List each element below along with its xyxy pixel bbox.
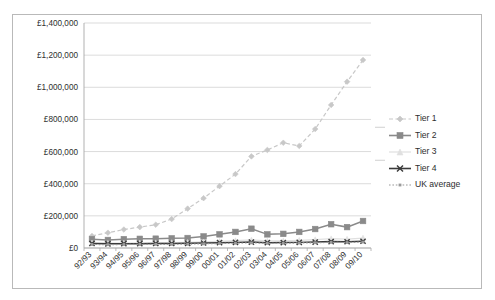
chart-legend: Tier 1Tier 2Tier 3Tier 4UK average [375,113,461,189]
legend-item-tier-2[interactable]: Tier 2 [389,130,437,140]
data-point-marker [312,226,318,232]
y-axis-tick-label: £0 [69,244,79,253]
data-point-marker [91,243,94,246]
legend-label: Tier 4 [415,163,437,173]
data-point-marker [397,133,403,139]
legend-label: Tier 2 [415,130,437,140]
series-line [92,60,363,236]
data-point-marker [330,241,333,244]
data-point-marker [107,243,110,246]
data-point-marker [296,229,302,235]
y-axis-labels: £0£200,000£400,000£600,000£800,000£1,000… [37,19,78,253]
y-axis-tick-label: £400,000 [44,180,79,189]
series-tier-1 [89,57,366,239]
legend-label: Tier 1 [415,113,437,123]
legend-label: UK average [415,179,461,189]
data-point-marker [137,224,143,230]
data-point-marker [328,221,334,227]
y-axis-tick-label: £600,000 [44,148,79,157]
data-point-marker [399,184,402,187]
data-point-marker [217,232,223,238]
data-point-marker [281,140,287,146]
data-point-marker [234,242,237,245]
legend-label: Tier 3 [415,146,437,156]
y-axis-tick-label: £200,000 [44,212,79,221]
data-point-marker [314,241,317,244]
series-line [92,221,363,240]
data-point-marker [282,242,285,245]
legend-item-uk-average[interactable]: UK average [389,179,461,189]
data-point-marker [346,241,349,244]
gridlines [84,23,371,248]
line-chart: £0£200,000£400,000£600,000£800,000£1,000… [13,15,481,288]
chart-frame: £0£200,000£400,000£600,000£800,000£1,000… [12,14,482,289]
data-point-marker [169,216,175,222]
data-point-marker [266,242,269,245]
data-point-marker [122,243,125,246]
data-point-marker [121,227,127,233]
data-point-marker [362,241,365,244]
legend-item-tier-3[interactable]: Tier 3 [389,146,437,156]
data-point-marker [154,243,157,246]
data-point-marker [233,229,239,235]
data-point-marker [186,243,189,246]
data-point-marker [138,243,141,246]
data-point-marker [265,232,271,238]
legend-item-tier-1[interactable]: Tier 1 [389,113,437,123]
data-point-marker [360,218,366,224]
y-axis-tick-label: £1,200,000 [37,51,78,60]
data-point-marker [202,242,205,245]
data-point-marker [105,230,111,236]
data-point-marker [153,222,159,228]
data-point-marker [397,116,403,122]
x-axis-labels: 92/9393/9494/9595/9696/9797/9898/9999/00… [73,250,365,271]
data-point-marker [250,241,253,244]
data-point-marker [201,234,207,240]
data-point-marker [298,242,301,245]
y-axis-tick-label: £1,000,000 [37,83,78,92]
y-axis-tick-label: £800,000 [44,115,79,124]
data-point-marker [281,231,287,237]
legend-item-tier-4[interactable]: Tier 4 [389,163,437,173]
data-point-marker [249,226,255,232]
data-point-marker [344,224,350,230]
data-point-marker [170,243,173,246]
x-axis-tick-label: 09/10 [344,250,365,271]
data-point-marker [249,154,255,160]
y-axis-tick-label: £1,400,000 [37,19,78,28]
data-point-marker [218,242,221,245]
axis-lines [84,23,371,251]
